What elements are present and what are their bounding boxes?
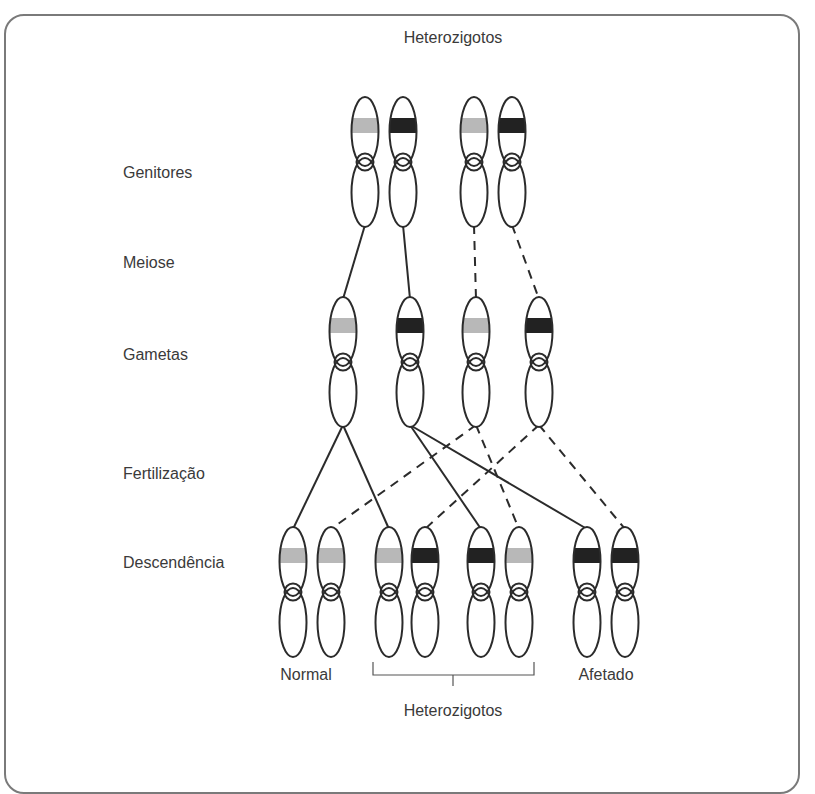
fertilization-line xyxy=(476,425,519,529)
mutant-allele-band xyxy=(499,118,526,133)
normal-allele-band xyxy=(330,318,357,333)
mutant-allele-band xyxy=(397,318,424,333)
mutant-allele-band xyxy=(390,118,417,133)
fertilization-line xyxy=(539,425,625,529)
mutant-allele-band xyxy=(412,548,439,563)
mutant-allele-band xyxy=(526,318,553,333)
fertilization-line xyxy=(331,425,476,529)
offspring-chromosome xyxy=(376,527,403,657)
offspring-chromosome xyxy=(412,527,439,657)
heterozygous-bracket xyxy=(373,662,534,686)
mutant-allele-band xyxy=(468,548,495,563)
meiosis-line xyxy=(343,225,365,299)
normal-allele-band xyxy=(318,548,345,563)
normal-allele-band xyxy=(463,318,490,333)
meiosis-line xyxy=(512,225,539,299)
normal-allele-band xyxy=(506,548,533,563)
gamete-chromosome xyxy=(330,297,357,427)
offspring-chromosome xyxy=(318,527,345,657)
mutant-allele-band xyxy=(574,548,601,563)
offspring-chromosome xyxy=(468,527,495,657)
chromosomes xyxy=(280,97,639,657)
parent-chromosome xyxy=(390,97,417,227)
normal-allele-band xyxy=(461,118,488,133)
meiosis-line xyxy=(403,225,410,299)
normal-allele-band xyxy=(376,548,403,563)
offspring-chromosome xyxy=(574,527,601,657)
offspring-chromosome xyxy=(612,527,639,657)
gamete-chromosome xyxy=(526,297,553,427)
offspring-chromosome xyxy=(506,527,533,657)
parent-chromosome xyxy=(461,97,488,227)
mutant-allele-band xyxy=(612,548,639,563)
gamete-chromosome xyxy=(463,297,490,427)
normal-allele-band xyxy=(280,548,307,563)
gamete-chromosome xyxy=(397,297,424,427)
parent-chromosome xyxy=(499,97,526,227)
fertilization-line xyxy=(293,425,343,529)
fertilization-line xyxy=(343,425,389,529)
normal-allele-band xyxy=(352,118,379,133)
offspring-chromosome xyxy=(280,527,307,657)
parent-chromosome xyxy=(352,97,379,227)
meiosis-line xyxy=(474,225,476,299)
fertilization-line xyxy=(410,425,481,529)
